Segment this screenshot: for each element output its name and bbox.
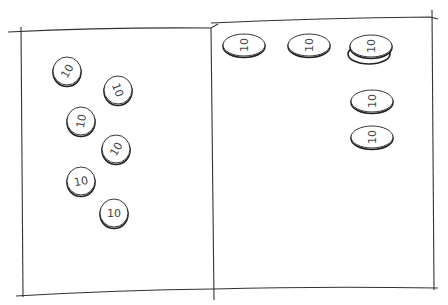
coin: 10 [67, 107, 95, 137]
coin: 10 [288, 34, 330, 58]
coin-sketch: 101010101010 1010101010 [0, 0, 448, 305]
coin: 10 [102, 135, 130, 165]
coin-stack: 10 [348, 35, 392, 64]
coin-label: 10 [107, 207, 121, 220]
right-coin-group: 1010101010 [223, 34, 393, 150]
left-coin-group: 101010101010 [53, 57, 132, 229]
coin-label: 10 [73, 174, 89, 189]
coin: 10 [223, 34, 265, 58]
coin: 10 [67, 167, 95, 197]
coin-label: 10 [238, 38, 251, 52]
coin-label: 10 [365, 39, 378, 53]
coin: 10 [53, 57, 81, 87]
coin-label: 10 [366, 94, 379, 108]
coin: 10 [351, 90, 393, 114]
coin: 10 [351, 126, 393, 150]
coin: 10 [100, 199, 128, 229]
coin-label: 10 [74, 113, 89, 129]
coin-label: 10 [366, 130, 379, 144]
coin: 10 [104, 76, 132, 106]
coin-label: 10 [303, 38, 316, 52]
